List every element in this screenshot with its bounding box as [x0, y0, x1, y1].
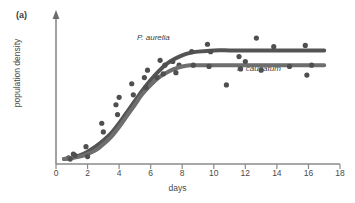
data-point — [161, 71, 166, 76]
data-point — [206, 64, 211, 69]
data-point — [303, 43, 308, 48]
data-point — [115, 112, 120, 117]
data-point — [99, 121, 104, 126]
data-point — [131, 92, 136, 97]
data-point — [238, 66, 243, 71]
data-point — [259, 68, 264, 73]
x-axis-tick-label: 4 — [117, 168, 122, 178]
data-point — [113, 102, 118, 107]
data-point — [101, 129, 106, 134]
data-point — [170, 59, 175, 64]
data-point — [236, 54, 241, 59]
data-point — [72, 153, 77, 158]
series-curve — [64, 65, 324, 159]
data-point — [243, 59, 248, 64]
data-point — [287, 64, 292, 69]
x-axis-tick-label: 18 — [335, 168, 344, 178]
figure-panel: (a) population density days P. aurelia P… — [0, 0, 355, 203]
y-axis-arrowhead — [53, 10, 60, 19]
data-point — [85, 154, 90, 159]
data-point — [224, 82, 229, 87]
data-point — [145, 68, 150, 73]
data-point — [68, 156, 73, 161]
data-point — [304, 73, 309, 78]
data-point — [254, 35, 259, 40]
x-axis-tick-label: 8 — [180, 168, 185, 178]
data-point — [191, 63, 196, 68]
x-axis-ticks — [56, 164, 340, 169]
series-p-aurelia — [64, 35, 324, 160]
data-point — [173, 70, 178, 75]
data-point — [208, 49, 213, 54]
x-axis-tick-label: 14 — [272, 168, 281, 178]
data-point — [129, 81, 134, 86]
x-axis-tick-label: 6 — [148, 168, 153, 178]
data-point — [142, 75, 147, 80]
data-point — [205, 42, 210, 47]
data-point — [271, 44, 276, 49]
series-p-caudatum — [64, 59, 324, 162]
series-group — [64, 35, 324, 161]
x-axis-tick-label: 2 — [85, 168, 90, 178]
x-axis-tick-label: 12 — [241, 168, 250, 178]
data-point — [154, 75, 159, 80]
data-point — [117, 95, 122, 100]
data-point — [162, 63, 167, 68]
x-axis-tick-label: 0 — [54, 168, 59, 178]
data-point — [83, 144, 88, 149]
data-point — [158, 58, 163, 63]
x-axis-tick-label: 10 — [209, 168, 218, 178]
x-axis-tick-label: 16 — [304, 168, 313, 178]
data-point — [309, 63, 314, 68]
data-point — [143, 85, 148, 90]
data-point — [189, 49, 194, 54]
